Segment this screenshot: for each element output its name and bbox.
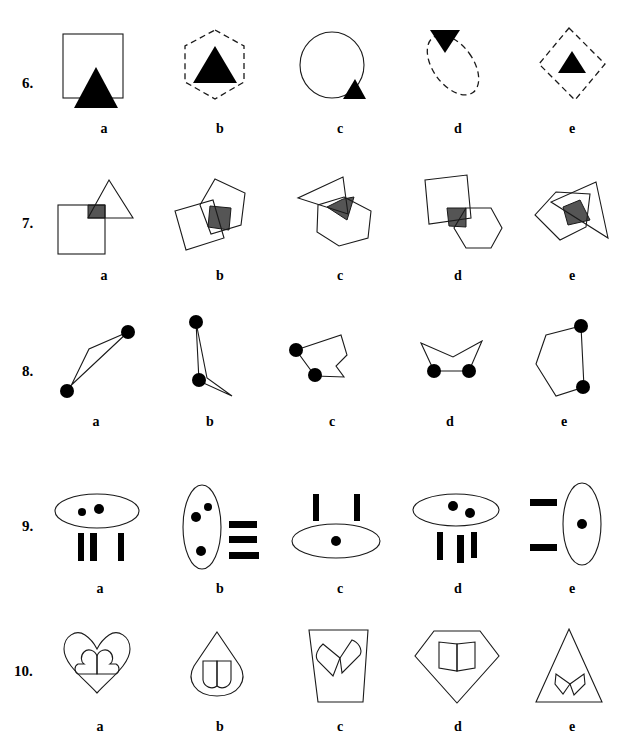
option-cell-10e[interactable]: e <box>512 618 632 718</box>
inner-lobe-outline <box>340 640 361 673</box>
bar <box>354 494 360 521</box>
dot <box>331 536 341 546</box>
polygon-outline <box>296 335 347 377</box>
bar <box>229 536 257 543</box>
option-cell-6c[interactable]: c <box>280 20 400 120</box>
dot <box>465 508 475 518</box>
bar <box>530 499 557 506</box>
option-cell-7d[interactable]: d <box>398 167 518 267</box>
option-cell-9d[interactable]: d <box>398 480 518 580</box>
overlap-region <box>208 206 231 230</box>
option-cell-6a[interactable]: a <box>44 20 164 120</box>
vertex-dot <box>308 368 322 382</box>
figure-6c <box>280 20 400 120</box>
figure-9e <box>512 480 632 580</box>
vertex-dot <box>576 380 590 394</box>
vertex-dot <box>60 384 74 398</box>
bar <box>471 532 477 558</box>
option-label-10d: d <box>398 718 518 736</box>
figure-10e <box>512 618 632 718</box>
bar <box>118 533 124 561</box>
option-cell-6e[interactable]: e <box>512 20 632 120</box>
inner-lobe-outline <box>457 642 475 671</box>
option-cell-10b[interactable]: b <box>160 618 280 718</box>
option-cell-8c[interactable]: c <box>272 313 392 413</box>
figure-8a <box>36 313 156 413</box>
option-label-6a: a <box>44 120 164 138</box>
option-cell-6d[interactable]: d <box>398 20 518 120</box>
bar <box>457 535 464 563</box>
option-cell-9e[interactable]: e <box>512 480 632 580</box>
figure-9a <box>40 480 160 580</box>
option-label-10c: c <box>280 718 400 736</box>
row-number-9: 9. <box>22 518 33 535</box>
figure-7e <box>512 167 632 267</box>
option-cell-8a[interactable]: a <box>36 313 156 413</box>
bar <box>229 552 259 559</box>
row-number-10: 10. <box>14 663 33 680</box>
option-label-8c: c <box>272 413 392 431</box>
worksheet-page: 6. a b <box>0 0 637 756</box>
option-cell-9c[interactable]: c <box>280 480 400 580</box>
option-label-10e: e <box>512 718 632 736</box>
inner-heart-outline <box>75 650 97 674</box>
option-label-10b: b <box>160 718 280 736</box>
inner-lobe-outline <box>316 644 340 676</box>
option-cell-7e[interactable]: e <box>512 167 632 267</box>
option-label-7e: e <box>512 267 632 285</box>
vertex-dot <box>192 373 206 387</box>
option-cell-7c[interactable]: c <box>280 167 400 267</box>
figure-7a <box>44 167 164 267</box>
vertex-dot <box>427 364 441 378</box>
vertex-dot <box>574 319 588 333</box>
dot <box>78 508 86 516</box>
dot <box>94 504 104 514</box>
option-cell-7b[interactable]: b <box>160 167 280 267</box>
polygon-outline <box>65 332 128 391</box>
option-cell-7a[interactable]: a <box>44 167 164 267</box>
option-label-8d: d <box>390 413 510 431</box>
dot <box>448 501 458 511</box>
row-number-7: 7. <box>22 215 33 232</box>
figure-7c <box>280 167 400 267</box>
option-cell-9b[interactable]: b <box>160 480 280 580</box>
option-label-7b: b <box>160 267 280 285</box>
figure-9d <box>398 480 518 580</box>
overlap-region <box>88 205 105 218</box>
bar <box>437 532 443 560</box>
triangle-filled <box>558 51 586 73</box>
inner-lobe-outline <box>203 661 217 688</box>
option-cell-10d[interactable]: d <box>398 618 518 718</box>
inner-lobe-outline <box>217 661 231 688</box>
dot <box>577 519 587 529</box>
option-label-6c: c <box>280 120 400 138</box>
option-cell-10c[interactable]: c <box>280 618 400 718</box>
option-label-6b: b <box>160 120 280 138</box>
option-cell-8b[interactable]: b <box>150 313 270 413</box>
option-cell-10a[interactable]: a <box>40 618 160 718</box>
figure-8c <box>272 313 392 413</box>
figure-9c <box>280 480 400 580</box>
option-label-9e: e <box>512 580 632 598</box>
option-label-9c: c <box>280 580 400 598</box>
inner-lobe-outline <box>439 642 457 671</box>
option-label-9a: a <box>40 580 160 598</box>
option-cell-8e[interactable]: e <box>504 313 624 413</box>
option-label-8b: b <box>150 413 270 431</box>
figure-6a <box>44 20 164 120</box>
inner-heart-outline <box>97 650 119 674</box>
figure-10c <box>280 618 400 718</box>
option-label-7c: c <box>280 267 400 285</box>
option-label-6d: d <box>398 120 518 138</box>
option-cell-6b[interactable]: b <box>160 20 280 120</box>
vertex-dot <box>121 325 135 339</box>
triangle-filled <box>74 67 118 108</box>
option-cell-9a[interactable]: a <box>40 480 160 580</box>
figure-6b <box>160 20 280 120</box>
option-cell-8d[interactable]: d <box>390 313 510 413</box>
ellipse-outline <box>183 485 221 569</box>
option-label-8e: e <box>504 413 624 431</box>
option-label-9d: d <box>398 580 518 598</box>
bar <box>78 533 84 561</box>
bar <box>229 521 257 528</box>
